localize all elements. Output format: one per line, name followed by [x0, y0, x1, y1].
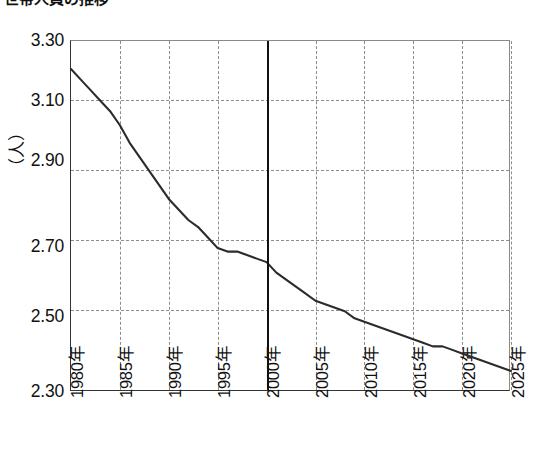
y-tick-label-5: 2.30: [0, 381, 64, 402]
y-tick-label-2: 2.90: [0, 150, 64, 171]
y-tick-label-0: 3.30: [0, 30, 64, 51]
plot-area: [70, 40, 510, 391]
gridline-vertical-2025: [511, 41, 512, 390]
data-series-svg: [71, 41, 511, 392]
y-tick-label-3: 2.70: [0, 236, 64, 257]
marker-line-2000: [267, 41, 269, 390]
series-line-average-household-size: [71, 69, 511, 371]
y-tick-label-4: 2.50: [0, 306, 64, 327]
line-chart: （人） 3.30 3.10 2.90 2.70 2.50 2.30 1980年 …: [0, 0, 536, 475]
y-tick-label-1: 3.10: [0, 90, 64, 111]
